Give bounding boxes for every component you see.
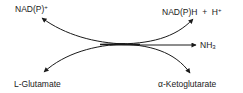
label-nh3-subscript: 3 [212, 44, 215, 50]
arrow-to-nadph [115, 19, 193, 44]
label-nh3: NH3 [200, 41, 216, 50]
label-nadph: NAD(P)H + H+ [162, 7, 221, 17]
label-nadp: NAD(P)+ [15, 4, 48, 14]
label-nadp-text: NAD(P) [15, 4, 44, 14]
label-nadp-charge: + [44, 4, 48, 10]
reaction-diagram: NAD(P)+ NAD(P)H + H+ NH3 L-Glutamate α-K… [0, 0, 243, 93]
arrow-to-nadp [42, 18, 125, 44]
label-nh3-text: NH [200, 40, 212, 50]
arrow-to-ketoglutarate [115, 44, 190, 73]
arrow-to-glutamate [44, 44, 125, 72]
label-nadph-text: NAD(P)H + H [162, 7, 218, 17]
label-alpha-ketoglutarate: α-Ketoglutarate [158, 80, 216, 89]
label-l-glutamate: L-Glutamate [14, 80, 61, 89]
label-nadph-charge: + [218, 7, 222, 13]
